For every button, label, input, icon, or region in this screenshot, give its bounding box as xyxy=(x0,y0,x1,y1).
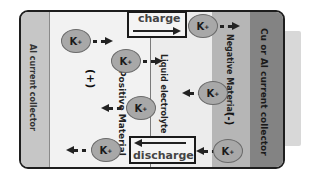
k-ion: K+ xyxy=(213,139,243,163)
charge-label: charge xyxy=(138,12,181,25)
discharge-arrow-icon xyxy=(134,139,142,147)
discharge-label: discharge xyxy=(133,149,194,162)
k-ion: K+ xyxy=(198,81,228,105)
discharge-arrow-line xyxy=(142,142,186,144)
electrolyte-label: Liquid electrolyte xyxy=(159,54,168,133)
ion-arrow-right xyxy=(93,37,113,45)
positive-sign: (+) xyxy=(84,69,97,88)
ion-arrow-left xyxy=(66,146,86,154)
cu-al-current-collector: Cu or Al current collector xyxy=(250,12,285,167)
al-current-collector: Al current collector xyxy=(21,12,50,167)
k-ion: K+ xyxy=(126,96,156,120)
ion-arrow-left xyxy=(101,104,121,112)
k-ion: K+ xyxy=(188,14,218,38)
negative-label: Negative Material xyxy=(225,34,234,115)
charge-arrow-line xyxy=(133,30,173,32)
k-ion: K+ xyxy=(111,49,141,73)
ion-arrow-right xyxy=(220,22,240,30)
battery-terminal-tab xyxy=(284,31,301,146)
cu-collector-label: Cu or Al current collector xyxy=(259,28,269,156)
negative-sign: (-) xyxy=(224,112,235,125)
ion-arrow-right xyxy=(143,57,163,65)
k-ion: K+ xyxy=(61,29,91,53)
k-ion: K+ xyxy=(91,138,121,162)
al-collector-label: Al current collector xyxy=(28,44,37,131)
charge-arrow-icon xyxy=(173,27,181,35)
